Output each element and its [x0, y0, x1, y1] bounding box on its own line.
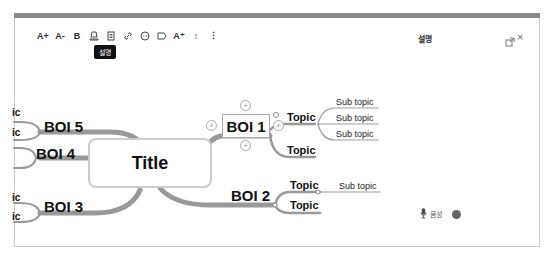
branch-boi-3[interactable]: BOI 3	[44, 198, 83, 215]
subtopic[interactable]: Sub topic	[336, 129, 374, 139]
branch-boi-1[interactable]: BOI 1	[222, 114, 270, 138]
subtopic[interactable]: Sub topic	[336, 97, 374, 107]
add-right-button[interactable]: +	[273, 120, 284, 131]
add-above-button[interactable]: +	[240, 100, 251, 111]
branch-boi-4[interactable]: BOI 4	[36, 145, 75, 162]
topic-boi3-2[interactable]: ic	[12, 211, 20, 222]
add-left-button[interactable]: +	[206, 120, 217, 131]
central-topic[interactable]: Title	[88, 138, 212, 188]
topic-boi1-2[interactable]: Topic	[287, 144, 316, 156]
topic-boi5-2[interactable]: ic	[12, 127, 20, 138]
branch-boi-5[interactable]: BOI 5	[44, 118, 83, 135]
subtopic[interactable]: Sub topic	[336, 113, 374, 123]
topic-boi1-1[interactable]: Topic	[287, 111, 316, 123]
topic-boi3-1[interactable]: ic	[12, 192, 20, 203]
subtopic[interactable]: Sub topic	[339, 181, 377, 191]
topic-boi2-1[interactable]: Topic	[290, 179, 319, 191]
topic-boi5-1[interactable]: ic	[12, 107, 20, 118]
add-below-button[interactable]: +	[240, 140, 251, 151]
branch-boi-2[interactable]: BOI 2	[231, 187, 270, 204]
topic-boi2-2[interactable]: Topic	[290, 199, 319, 211]
